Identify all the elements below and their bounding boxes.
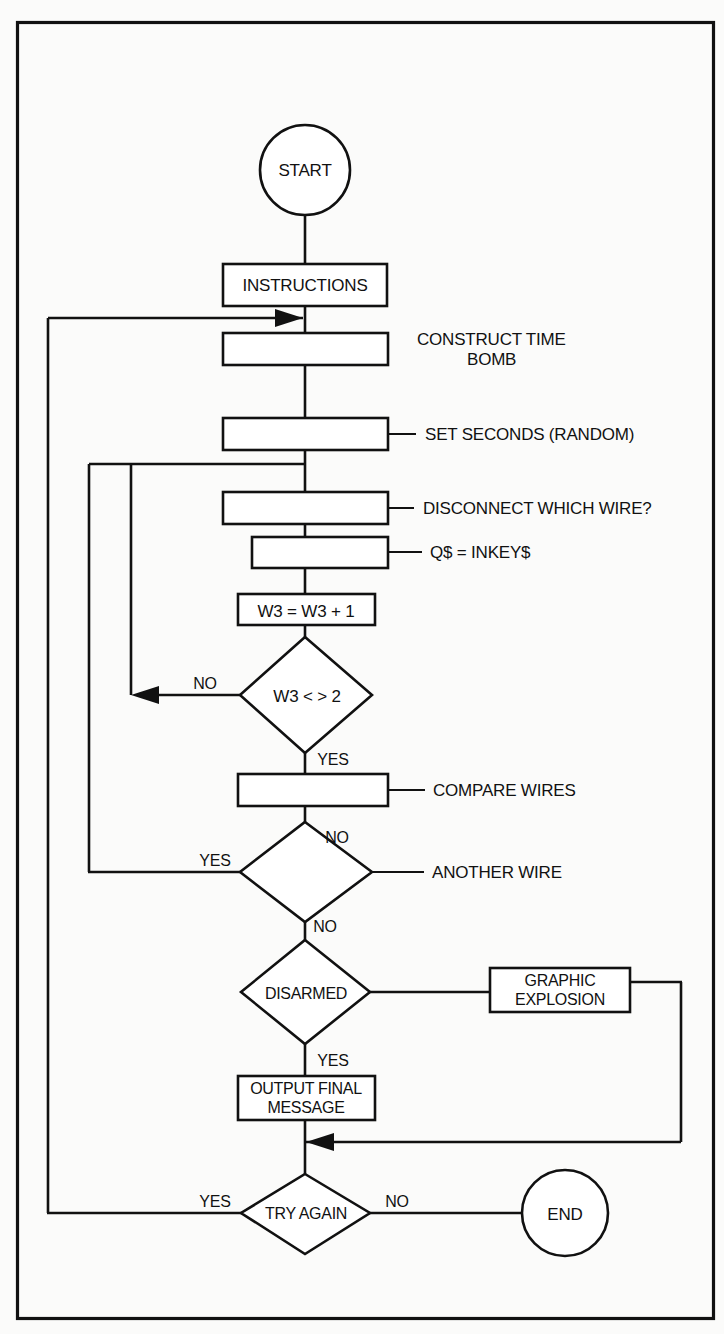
end-label: END xyxy=(547,1205,582,1224)
node-start[interactable]: START xyxy=(260,125,350,215)
graphic-explosion-label-line1: GRAPHIC xyxy=(525,972,596,989)
node-compare-wires[interactable] xyxy=(238,774,388,806)
branch-label-tryagain-yes: YES xyxy=(199,1193,230,1210)
branch-label-anotherwire-yes: YES xyxy=(199,852,230,869)
compare-wires-box-shape xyxy=(238,774,388,806)
disarmed-label: DISARMED xyxy=(265,985,347,1002)
node-set-seconds[interactable] xyxy=(223,418,388,450)
try-again-label: TRY AGAIN xyxy=(265,1205,347,1222)
node-try-again[interactable]: TRY AGAIN xyxy=(241,1174,370,1254)
annot-compare-wires-line1: COMPARE WIRES xyxy=(433,781,576,800)
branch-label-tryagain-no: NO xyxy=(385,1193,409,1210)
inkey-box-shape xyxy=(252,537,388,568)
annotation-text-layer: CONSTRUCT TIME BOMB SET SECONDS (RANDOM)… xyxy=(417,330,652,882)
node-end[interactable]: END xyxy=(522,1170,608,1256)
w3-increment-label: W3 = W3 + 1 xyxy=(257,602,354,621)
branch-label-disarmed-no: NO xyxy=(313,918,337,935)
annot-set-seconds-line1: SET SECONDS (RANDOM) xyxy=(425,425,634,444)
node-disarmed[interactable]: DISARMED xyxy=(241,940,370,1044)
arrowhead-explosion-return xyxy=(306,1133,334,1151)
page-border xyxy=(18,23,714,1319)
node-construct-bomb[interactable] xyxy=(223,333,388,365)
branch-label-anotherwire-no: NO xyxy=(325,829,349,846)
node-output-final[interactable]: OUTPUT FINAL MESSAGE xyxy=(238,1076,375,1120)
flowchart-canvas: START INSTRUCTIONS W3 = W3 + 1 xyxy=(0,0,724,1334)
annot-another-wire-line1: ANOTHER WIRE xyxy=(432,863,562,882)
branch-label-w3test-yes: YES xyxy=(317,751,348,768)
node-w3-test[interactable]: W3 < > 2 xyxy=(240,637,372,753)
branch-label-disarmed-yes: YES xyxy=(317,1052,348,1069)
arrowhead-tryagain-yes xyxy=(275,309,303,327)
annot-construct-bomb-line2: BOMB xyxy=(467,350,516,369)
instructions-label: INSTRUCTIONS xyxy=(242,276,367,295)
annot-inkey-line1: Q$ = INKEY$ xyxy=(430,543,531,562)
output-final-label-line1: OUTPUT FINAL xyxy=(250,1080,362,1097)
another-wire-diamond-shape xyxy=(240,822,372,922)
node-graphic-explosion[interactable]: GRAPHIC EXPLOSION xyxy=(490,968,630,1012)
construct-bomb-box-shape xyxy=(223,333,388,365)
flowchart-svg: START INSTRUCTIONS W3 = W3 + 1 xyxy=(0,0,724,1334)
set-seconds-box-shape xyxy=(223,418,388,450)
graphic-explosion-label-line2: EXPLOSION xyxy=(515,991,605,1008)
node-w3-increment[interactable]: W3 = W3 + 1 xyxy=(238,594,375,625)
disconnect-wire-box-shape xyxy=(223,492,388,524)
arrowhead-w3test-no xyxy=(131,686,159,704)
start-label: START xyxy=(278,161,331,180)
output-final-label-line2: MESSAGE xyxy=(267,1099,344,1116)
node-instructions[interactable]: INSTRUCTIONS xyxy=(223,264,387,306)
annot-disconnect-wire-line1: DISCONNECT WHICH WIRE? xyxy=(423,499,652,518)
node-inkey[interactable] xyxy=(252,537,388,568)
branch-label-w3test-no: NO xyxy=(193,675,217,692)
w3-test-label: W3 < > 2 xyxy=(273,687,340,706)
node-disconnect-wire[interactable] xyxy=(223,492,388,524)
node-another-wire[interactable] xyxy=(240,822,372,922)
annot-construct-bomb-line1: CONSTRUCT TIME xyxy=(417,330,566,349)
